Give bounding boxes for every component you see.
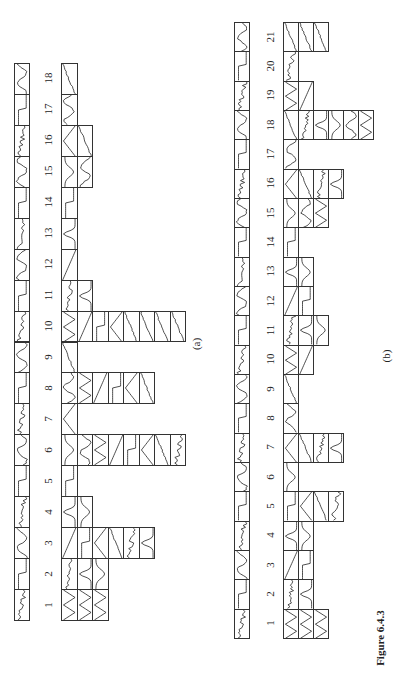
panel_b-strip-cell-20 xyxy=(234,51,250,81)
panel_a-column-label: 6 xyxy=(42,440,54,460)
panel_b-strip-cell-10 xyxy=(234,345,250,375)
panel_a-column-label: 10 xyxy=(42,316,54,336)
panel_b-subplot-cell xyxy=(298,81,314,111)
panel_b-subplot-cell xyxy=(283,403,299,433)
panel_b-strip-cell-14 xyxy=(234,227,250,257)
panel_a-strip-cell-7 xyxy=(14,403,30,435)
panel_b-subplot-cell xyxy=(283,227,299,257)
panel_a-subplot-cell xyxy=(77,280,94,312)
panel_b-subplot-cell xyxy=(298,550,314,580)
panel_b-subplot-cell xyxy=(313,22,329,52)
panel_b-column-label: 19 xyxy=(264,85,276,105)
panel_b-strip-cell-1 xyxy=(234,609,250,639)
panel_b-subplot-cell xyxy=(283,315,299,345)
panel_a-strip-cell-2 xyxy=(14,558,30,590)
panel_b-subplot-cell xyxy=(298,609,314,639)
panel_a-subplot-cell xyxy=(61,280,78,312)
panel_a-strip-cell-10 xyxy=(14,311,30,343)
panel_b-column-label: 20 xyxy=(264,56,276,76)
panel_b-subplot-cell xyxy=(298,315,314,345)
panel_b-subplot-cell xyxy=(283,579,299,609)
panel_a-subplot-cell xyxy=(123,434,140,466)
panel_b-column-label: 8 xyxy=(264,408,276,428)
panel_b-strip-cell-5 xyxy=(234,491,250,521)
panel_b-subplot-cell xyxy=(313,110,329,140)
panel_b-column-label: 2 xyxy=(264,584,276,604)
panel_b-subplot-cell xyxy=(313,491,329,521)
panel_b-subplot-cell xyxy=(283,198,299,228)
panel_a-subplot-cell xyxy=(123,527,140,559)
panel_b-subplot-cell xyxy=(298,521,314,551)
panel_a-strip-cell-14 xyxy=(14,187,30,219)
panel_a-column-label: 7 xyxy=(42,409,54,429)
panel_a-subplot-cell xyxy=(61,465,78,497)
panel_b-strip-cell-9 xyxy=(234,374,250,404)
panel_b-strip-cell-15 xyxy=(234,198,250,228)
panel_a-column-label: 3 xyxy=(42,533,54,553)
panel_a-strip-cell-11 xyxy=(14,280,30,312)
panel-a-label: (a) xyxy=(190,338,202,350)
panel_a-subplot-cell xyxy=(61,496,78,528)
panel_b-subplot-cell xyxy=(283,521,299,551)
panel_b-subplot-cell xyxy=(328,169,344,199)
panel_b-subplot-cell xyxy=(283,550,299,580)
panel_a-subplot-cell xyxy=(61,403,78,435)
panel_b-strip-cell-16 xyxy=(234,169,250,199)
panel_a-subplot-cell xyxy=(170,434,187,466)
panel_a-strip-cell-6 xyxy=(14,434,30,466)
panel_a-strip-cell-4 xyxy=(14,496,30,528)
panel_a-subplot-cell xyxy=(61,558,78,590)
panel_b-strip-cell-8 xyxy=(234,403,250,433)
panel_a-subplot-cell xyxy=(77,311,94,343)
panel_a-strip-cell-8 xyxy=(14,372,30,404)
panel_a-strip-cell-5 xyxy=(14,465,30,497)
panel_b-column-label: 5 xyxy=(264,496,276,516)
panel_a-column-label: 14 xyxy=(42,192,54,212)
panel_a-column-label: 1 xyxy=(42,595,54,615)
panel_a-column-label: 2 xyxy=(42,564,54,584)
panel_b-subplot-cell xyxy=(298,22,314,52)
panel_a-subplot-cell xyxy=(123,372,140,404)
panel_b-subplot-cell xyxy=(283,81,299,111)
panel_a-subplot-cell xyxy=(61,372,78,404)
panel_a-subplot-cell xyxy=(92,558,109,590)
panel_a-subplot-cell xyxy=(61,342,78,374)
panel_b-strip-cell-11 xyxy=(234,315,250,345)
panel_a-column-label: 13 xyxy=(42,223,54,243)
panel_b-subplot-cell xyxy=(298,491,314,521)
panel_b-column-label: 7 xyxy=(264,437,276,457)
panel_b-subplot-cell xyxy=(328,110,344,140)
panel_a-subplot-cell xyxy=(108,311,125,343)
panel_a-subplot-cell xyxy=(92,311,109,343)
panel_b-strip-cell-12 xyxy=(234,286,250,316)
figure-caption: Figure 6.4.3 xyxy=(374,610,386,666)
panel_a-subplot-cell xyxy=(61,63,78,95)
panel_b-column-label: 13 xyxy=(264,261,276,281)
panel_b-subplot-cell xyxy=(298,286,314,316)
panel_b-column-label: 12 xyxy=(264,291,276,311)
panel_b-column-label: 4 xyxy=(264,525,276,545)
panel_a-strip-cell-17 xyxy=(14,94,30,126)
panel_b-strip-cell-17 xyxy=(234,139,250,169)
panel_a-column-label: 15 xyxy=(42,161,54,181)
panel_a-subplot-cell xyxy=(77,589,94,621)
panel_b-subplot-cell xyxy=(298,198,314,228)
panel_a-subplot-cell xyxy=(123,311,140,343)
panel_a-subplot-cell xyxy=(77,558,94,590)
panel_b-subplot-cell xyxy=(298,345,314,375)
panel_a-subplot-cell xyxy=(92,434,109,466)
panel_b-subplot-cell xyxy=(313,169,329,199)
panel_a-strip-cell-1 xyxy=(14,589,30,621)
panel_a-subplot-cell xyxy=(61,311,78,343)
panel_a-column-label: 9 xyxy=(42,347,54,367)
panel_b-strip-cell-6 xyxy=(234,462,250,492)
panel_b-strip-cell-4 xyxy=(234,521,250,551)
panel_b-strip-cell-19 xyxy=(234,81,250,111)
panel_a-column-label: 18 xyxy=(42,68,54,88)
panel_a-subplot-cell xyxy=(108,434,125,466)
panel_b-subplot-cell xyxy=(283,609,299,639)
panel_a-subplot-cell xyxy=(92,589,109,621)
panel_b-subplot-cell xyxy=(283,462,299,492)
panel_a-subplot-cell xyxy=(77,125,94,157)
panel_a-column-label: 5 xyxy=(42,471,54,491)
